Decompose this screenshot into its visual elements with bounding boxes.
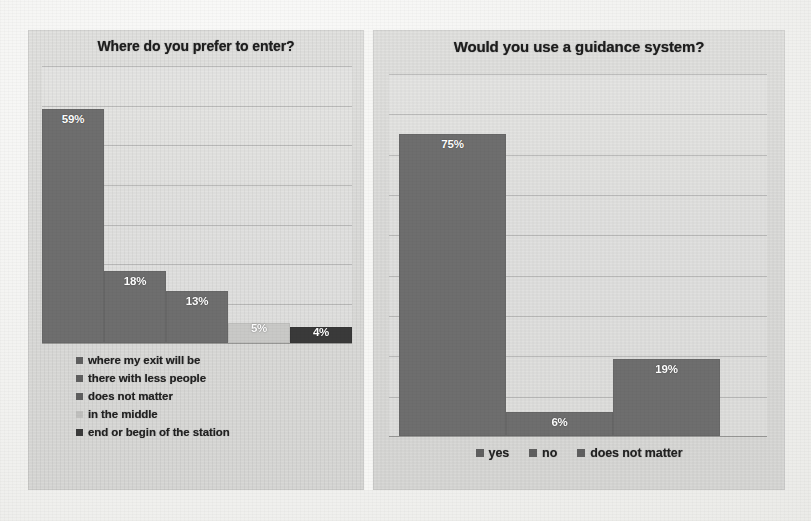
- legend-swatch-icon: [476, 449, 484, 457]
- left-chart-baseline: [42, 343, 352, 344]
- bar-value-label: 4%: [290, 326, 352, 338]
- left-chart-bars: 59% 18% 13% 5% 4%: [42, 66, 352, 343]
- legend-item-there-with-less-people[interactable]: there with less people: [76, 372, 230, 384]
- legend-item-yes[interactable]: yes: [476, 446, 510, 460]
- panel-divider: [364, 30, 373, 490]
- bar-value-label: 75%: [399, 138, 506, 150]
- legend-label: yes: [489, 446, 510, 460]
- left-chart-legend: where my exit will be there with less pe…: [76, 354, 230, 438]
- legend-label: does not matter: [88, 390, 173, 402]
- bar-where-my-exit-will-be[interactable]: 59%: [42, 109, 104, 343]
- figure-two-bar-charts: Where do you prefer to enter? 59% 18%: [28, 30, 785, 490]
- legend-label: where my exit will be: [88, 354, 200, 366]
- legend-item-in-the-middle[interactable]: in the middle: [76, 408, 230, 420]
- legend-swatch-icon: [529, 449, 537, 457]
- legend-item-where-my-exit-will-be[interactable]: where my exit will be: [76, 354, 230, 366]
- scanned-page: nur bei der Einfahrt in den Bahnhof tzer…: [0, 0, 811, 521]
- right-chart-plot-area: 75% 6% 19%: [389, 74, 767, 437]
- bar-value-label: 13%: [166, 295, 228, 307]
- legend-item-no[interactable]: no: [529, 446, 557, 460]
- legend-item-does-not-matter[interactable]: does not matter: [76, 390, 230, 402]
- right-chart-baseline: [389, 436, 767, 437]
- left-chart-title: Where do you prefer to enter?: [28, 38, 364, 54]
- bar-in-the-middle[interactable]: 5%: [228, 323, 290, 343]
- bar-end-or-begin-of-the-station[interactable]: 4%: [290, 327, 352, 343]
- legend-swatch-icon: [76, 411, 83, 418]
- right-chart-legend: yes no does not matter: [373, 446, 785, 460]
- bar-value-label: 59%: [42, 113, 104, 125]
- bar-value-label: 5%: [228, 322, 290, 334]
- legend-label: in the middle: [88, 408, 158, 420]
- bar-no[interactable]: 6%: [506, 412, 613, 436]
- chart-panel-right: Would you use a guidance system? 75%: [373, 30, 785, 490]
- right-chart-title: Would you use a guidance system?: [373, 38, 785, 55]
- left-chart-plot-area: 59% 18% 13% 5% 4%: [42, 66, 352, 344]
- legend-item-end-or-begin-of-the-station[interactable]: end or begin of the station: [76, 426, 230, 438]
- legend-swatch-icon: [577, 449, 585, 457]
- chart-panel-left: Where do you prefer to enter? 59% 18%: [28, 30, 364, 490]
- legend-label: end or begin of the station: [88, 426, 230, 438]
- bar-value-label: 19%: [613, 363, 720, 375]
- legend-label: no: [542, 446, 557, 460]
- bar-value-label: 6%: [506, 416, 613, 428]
- bar-does-not-matter[interactable]: 19%: [613, 359, 720, 436]
- legend-item-does-not-matter[interactable]: does not matter: [577, 446, 682, 460]
- bar-yes[interactable]: 75%: [399, 134, 506, 436]
- bar-there-with-less-people[interactable]: 18%: [104, 271, 166, 343]
- right-chart-bars: 75% 6% 19%: [389, 74, 767, 436]
- legend-swatch-icon: [76, 375, 83, 382]
- legend-label: does not matter: [590, 446, 682, 460]
- legend-swatch-icon: [76, 429, 83, 436]
- bars-left-pad: [389, 435, 399, 436]
- bar-value-label: 18%: [104, 275, 166, 287]
- legend-swatch-icon: [76, 357, 83, 364]
- legend-swatch-icon: [76, 393, 83, 400]
- legend-label: there with less people: [88, 372, 206, 384]
- bar-does-not-matter[interactable]: 13%: [166, 291, 228, 343]
